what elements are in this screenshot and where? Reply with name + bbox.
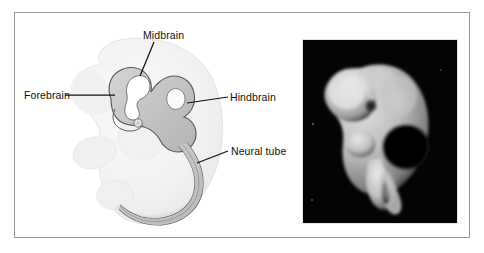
figure-frame: Midbrain Forebrain Hindbrain Neural tube bbox=[14, 12, 470, 238]
embryo-line-drawing bbox=[15, 13, 291, 237]
label-hindbrain: Hindbrain bbox=[230, 91, 276, 103]
embryo-photograph-panel bbox=[303, 40, 457, 223]
label-neural-tube: Neural tube bbox=[231, 145, 286, 157]
figure-root: Midbrain Forebrain Hindbrain Neural tube bbox=[0, 0, 484, 253]
embryo-photograph bbox=[303, 40, 457, 223]
label-forebrain: Forebrain bbox=[24, 89, 70, 101]
label-midbrain: Midbrain bbox=[143, 29, 184, 41]
embryo-diagram-panel: Midbrain Forebrain Hindbrain Neural tube bbox=[15, 13, 291, 237]
